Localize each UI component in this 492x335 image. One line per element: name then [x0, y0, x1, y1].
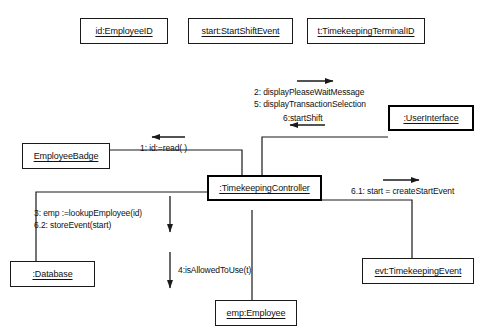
object-box-timekeeping-terminal-id[interactable]: t:TimekeepingTerminalID: [307, 18, 425, 44]
object-label: start:StartShiftEvent: [202, 26, 280, 36]
object-box-employee-id[interactable]: id:EmployeeID: [80, 18, 168, 44]
message-label-6: 6:startShift: [283, 112, 322, 124]
message-label-6-2: 6.2: storeEvent(start): [34, 219, 111, 231]
object-box-user-interface[interactable]: :UserInterface: [388, 105, 474, 131]
object-box-timekeeping-controller[interactable]: :TimekeepingController: [207, 175, 322, 201]
message-label-5: 5: displayTransactionSelection: [254, 98, 366, 110]
object-label: t:TimekeepingTerminalID: [318, 26, 415, 36]
object-box-database[interactable]: :Database: [10, 261, 95, 287]
object-label: :Database: [32, 269, 72, 279]
message-label-1: 1: id:=read( ): [140, 142, 187, 154]
uml-communication-diagram: id:EmployeeID start:StartShiftEvent t:Ti…: [0, 0, 492, 335]
object-box-employee-badge[interactable]: EmployeeBadge: [22, 143, 110, 169]
object-box-start-shift-event[interactable]: start:StartShiftEvent: [188, 18, 293, 44]
object-box-timekeeping-event[interactable]: evt:TimekeepingEvent: [362, 258, 474, 284]
message-label-2: 2: displayPleaseWaitMessage: [254, 86, 364, 98]
object-label: id:EmployeeID: [95, 26, 152, 36]
object-label: emp:Employee: [227, 308, 286, 318]
object-label: EmployeeBadge: [34, 151, 99, 161]
object-label: evt:TimekeepingEvent: [375, 266, 462, 276]
message-label-3: 3: emp :=lookupEmployee(id): [34, 207, 142, 219]
link-controller-timekeepingevent: [322, 200, 412, 258]
object-label: :TimekeepingController: [219, 183, 310, 193]
object-box-employee[interactable]: emp:Employee: [215, 300, 297, 326]
message-label-4: 4:isAllowedToUse(t): [178, 264, 251, 276]
message-label-6-1: 6.1: start = createStartEvent: [351, 185, 454, 197]
object-label: :UserInterface: [403, 113, 458, 123]
